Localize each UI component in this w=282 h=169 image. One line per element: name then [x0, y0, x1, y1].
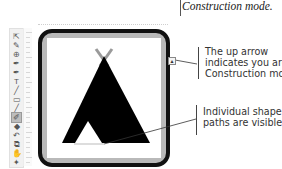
tipi-drawing	[0, 0, 282, 169]
shape-paths-callout-line-2: paths are visible.	[203, 117, 282, 128]
up-arrow-callout-line-2: indicates you are in	[205, 57, 282, 68]
up-arrow-callout: The up arrow indicates you are in Constr…	[205, 46, 282, 79]
shape-paths-callout-bar	[196, 105, 197, 135]
up-arrow-leader	[175, 60, 197, 64]
shape-paths-callout-line-1: Individual shape	[203, 106, 282, 117]
up-arrow-callout-bar	[198, 47, 199, 79]
construction-mode-up-arrow-icon[interactable]: ▲	[168, 57, 176, 65]
shape-paths-callout: Individual shape paths are visible.	[203, 106, 282, 128]
up-arrow-callout-line-1: The up arrow	[205, 46, 282, 57]
up-arrow-callout-line-3: Construction mode.	[205, 68, 282, 79]
tipi-body-shape	[62, 56, 150, 143]
